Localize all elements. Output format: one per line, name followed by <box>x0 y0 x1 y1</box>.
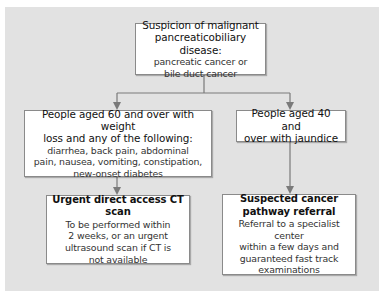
node-body-line: new-onset diabetes <box>73 168 163 180</box>
node-suspected-cancer-pathway-referral: Suspected cancer pathway referral Referr… <box>222 194 356 275</box>
node-body-line: pancreatic cancer or <box>154 56 248 68</box>
node-body-line: ultrasound scan if CT is <box>65 242 171 254</box>
node-aged-40-jaundice: People aged 40 and over with jaundice <box>236 110 346 142</box>
node-title-line: pathway referral <box>243 206 336 218</box>
node-body-line: examinations <box>258 264 319 276</box>
node-title-line: Suspected cancer <box>240 193 338 205</box>
node-body-line: not available <box>89 254 148 266</box>
node-title-line: People aged 40 and <box>241 107 341 132</box>
node-body-line: pain, nausea, vomiting, constipation, <box>34 156 202 168</box>
node-body-line: 2 weeks, or an urgent <box>68 230 167 242</box>
node-body-line: guaranteed fast track <box>240 253 339 265</box>
node-body-line: Referral to a specialist center <box>227 218 351 241</box>
node-suspicion-of-malignant-disease: Suspicion of malignant pancreaticobiliar… <box>135 23 266 75</box>
node-body-line: diarrhea, back pain, abdominal <box>47 145 188 157</box>
node-body-line: To be performed within <box>66 219 171 231</box>
node-body-line: bile duct cancer <box>164 68 237 80</box>
node-title-line: loss and any of the following: <box>43 132 193 144</box>
node-aged-60-weight-loss: People aged 60 and over with weight loss… <box>24 110 212 177</box>
node-title-line: over with jaundice <box>244 132 338 144</box>
node-urgent-ct-scan: Urgent direct access CT scan To be perfo… <box>46 195 190 264</box>
node-title-line: pancreaticobiliary disease: <box>140 31 261 56</box>
node-title-line: Suspicion of malignant <box>142 19 259 31</box>
node-body-line: within a few days and <box>239 241 338 253</box>
node-title-line: People aged 60 and over with weight <box>29 108 207 133</box>
node-title-line: Urgent direct access CT scan <box>51 194 185 219</box>
